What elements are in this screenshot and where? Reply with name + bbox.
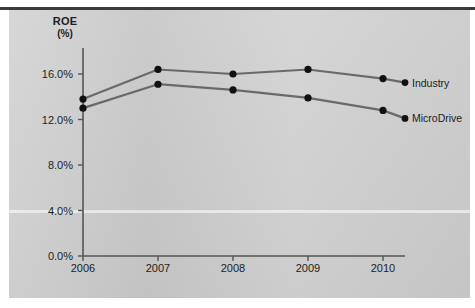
data-point <box>304 94 311 101</box>
x-tick-label: 2010 <box>355 262 411 274</box>
data-point <box>379 75 386 82</box>
y-tick-label: 12.0% <box>17 114 73 126</box>
data-point <box>154 66 161 73</box>
legend-marker-microdrive <box>402 115 409 122</box>
data-point <box>229 70 236 77</box>
y-tick-label: 16.0% <box>17 68 73 80</box>
x-tick-label: 2008 <box>205 262 261 274</box>
legend-label-microdrive: MicroDrive <box>412 112 462 124</box>
data-point <box>79 95 86 102</box>
legend-label-industry: Industry <box>412 77 449 89</box>
x-tick-label: 2009 <box>280 262 336 274</box>
series-line-industry <box>83 70 405 100</box>
y-tick-label: 0.0% <box>17 250 73 262</box>
y-tick-label: 8.0% <box>17 159 73 171</box>
x-tick-label: 2006 <box>55 262 111 274</box>
data-point <box>304 66 311 73</box>
data-point <box>154 81 161 88</box>
series-line-microdrive <box>83 84 405 118</box>
y-tick-label: 4.0% <box>17 205 73 217</box>
legend-marker-industry <box>402 79 409 86</box>
data-point <box>229 86 236 93</box>
x-tick-label: 2007 <box>130 262 186 274</box>
figure-page: ROE (%) 0.0%4.0%8.0%12.0%16.0% 200620072… <box>0 0 475 308</box>
data-point <box>379 107 386 114</box>
data-point <box>79 105 86 112</box>
roe-line-chart: ROE (%) 0.0%4.0%8.0%12.0%16.0% 200620072… <box>0 0 475 308</box>
